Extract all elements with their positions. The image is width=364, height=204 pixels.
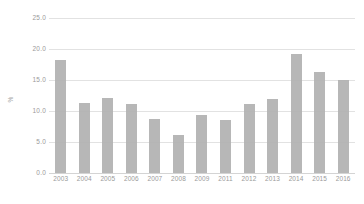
bar-slot	[73, 18, 97, 173]
bar-chart: % 20032004200520062007200820092011201220…	[0, 0, 364, 204]
bar-slot	[237, 18, 261, 173]
x-tick-label: 2013	[261, 176, 285, 183]
x-tick-label: 2009	[190, 176, 214, 183]
x-tick-label: 2007	[143, 176, 167, 183]
bar-slot	[190, 18, 214, 173]
y-tick-label: 5.0	[6, 139, 46, 146]
bar-slot	[331, 18, 355, 173]
bar-slot	[284, 18, 308, 173]
x-tick-label: 2003	[49, 176, 73, 183]
bar-slot	[167, 18, 191, 173]
bar[interactable]	[338, 80, 349, 173]
bar[interactable]	[79, 103, 90, 173]
bar-slot	[214, 18, 238, 173]
bar[interactable]	[267, 99, 278, 173]
bar[interactable]	[173, 135, 184, 173]
x-tick-label: 2014	[284, 176, 308, 183]
x-tick-label: 2012	[237, 176, 261, 183]
bar[interactable]	[196, 115, 207, 173]
bar[interactable]	[126, 104, 137, 173]
bar[interactable]	[220, 120, 231, 173]
x-tick-label: 2011	[214, 176, 238, 183]
y-tick-label: 0.0	[6, 170, 46, 177]
bar[interactable]	[244, 104, 255, 173]
gridline	[49, 173, 355, 174]
x-tick-label: 2015	[308, 176, 332, 183]
bar-slot	[49, 18, 73, 173]
plot-area	[49, 18, 355, 173]
bar[interactable]	[55, 60, 66, 173]
x-tick-label: 2005	[96, 176, 120, 183]
bar[interactable]	[149, 119, 160, 173]
y-tick-label: 10.0	[6, 108, 46, 115]
x-tick-label: 2016	[331, 176, 355, 183]
bar-slot	[308, 18, 332, 173]
y-tick-label: 15.0	[6, 77, 46, 84]
x-tick-label: 2008	[167, 176, 191, 183]
bar-slot	[120, 18, 144, 173]
x-axis-tick-labels: 2003200420052006200720082009201120122013…	[49, 176, 355, 183]
bar-slot	[143, 18, 167, 173]
bar[interactable]	[291, 54, 302, 173]
y-tick-label: 20.0	[6, 46, 46, 53]
y-axis-title: %	[7, 97, 14, 103]
y-tick-label: 25.0	[6, 15, 46, 22]
x-tick-label: 2004	[73, 176, 97, 183]
bar-slot	[261, 18, 285, 173]
bar-series	[49, 18, 355, 173]
x-tick-label: 2006	[120, 176, 144, 183]
bar-slot	[96, 18, 120, 173]
bar[interactable]	[102, 98, 113, 173]
bar[interactable]	[314, 72, 325, 173]
